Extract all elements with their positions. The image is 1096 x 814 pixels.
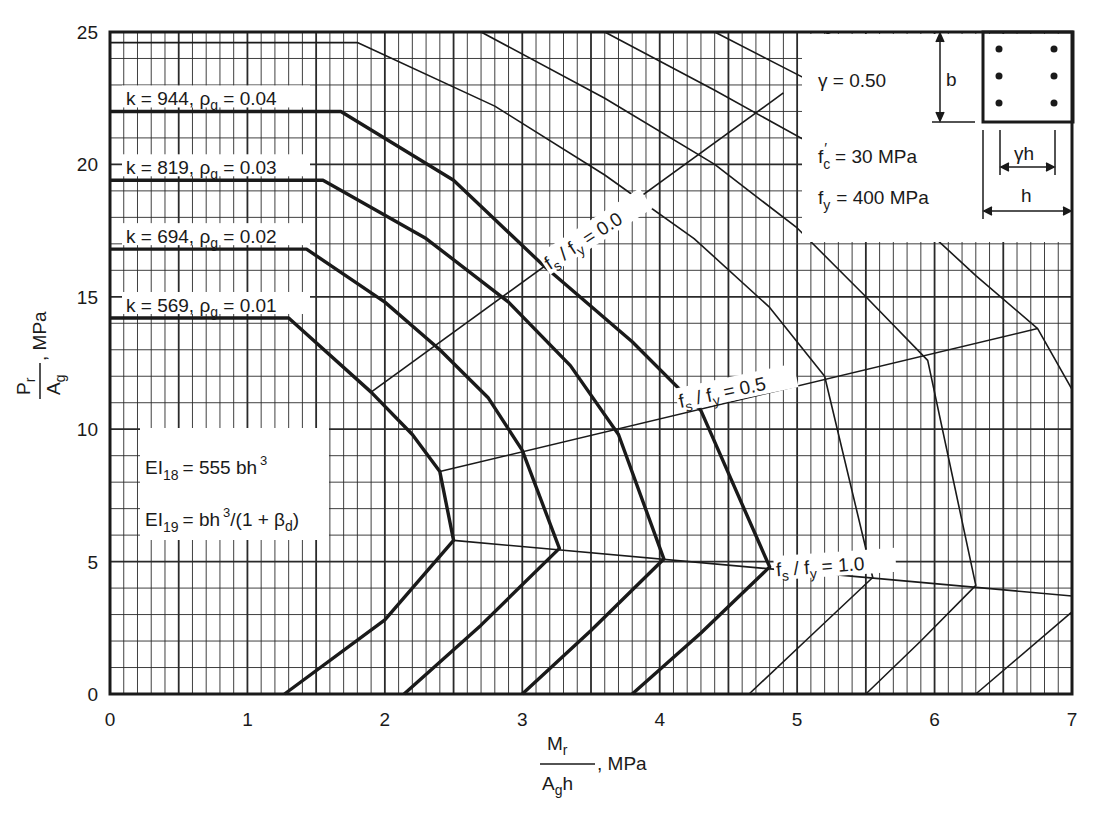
b-label: b (946, 69, 957, 90)
x-tick: 0 (105, 709, 116, 730)
stress-ratio-label: fs / fy = 0.5 (674, 364, 799, 417)
y-tick: 20 (77, 154, 98, 175)
x-tick: 6 (929, 709, 940, 730)
svg-text:Pr: Pr (13, 377, 38, 395)
svg-text:, MPa: , MPa (29, 311, 50, 361)
curve-label: k = 944, ρg = 0.04 (126, 88, 277, 113)
svg-text:fs / fy = 0.0: fs / fy = 0.0 (541, 208, 629, 277)
x-tick: 2 (380, 709, 391, 730)
section-legend: γ = 0.50 fc′= 30 MPa fy= 400 MPa b (802, 32, 1074, 242)
stress-ratio-label: fs / fy = 0.0 (537, 188, 655, 278)
gamma-label: γ = 0.50 (818, 70, 886, 91)
x-tick: 5 (792, 709, 803, 730)
svg-text:Agh: Agh (542, 773, 573, 798)
x-tick: 1 (242, 709, 253, 730)
x-tick: 4 (654, 709, 665, 730)
x-axis-label: Mr Agh , MPa (540, 733, 647, 798)
curve-label: k = 819, ρg = 0.03 (126, 157, 277, 182)
y-tick: 5 (87, 552, 98, 573)
x-tick: 3 (517, 709, 528, 730)
interaction-curve-thin (110, 43, 873, 694)
svg-text:Mr: Mr (547, 733, 568, 758)
x-tick: 7 (1067, 709, 1078, 730)
y-tick: 25 (77, 22, 98, 43)
y-tick: 10 (77, 419, 98, 440)
h-label: h (1021, 185, 1032, 206)
curve-labels: k = 569, ρg = 0.01k = 694, ρg = 0.02k = … (122, 85, 310, 320)
interaction-diagram: k = 569, ρg = 0.01k = 694, ρg = 0.02k = … (0, 0, 1096, 814)
curve-label: k = 569, ρg = 0.01 (126, 295, 277, 320)
y-axis-label: Pr Ag , MPa (13, 311, 68, 399)
y-tick: 0 (87, 684, 98, 705)
y-tick-labels: 0510152025 (77, 22, 98, 705)
y-tick: 15 (77, 287, 98, 308)
x-tick-labels: 01234567 (105, 709, 1078, 730)
gamma-h-label: γh (1014, 143, 1034, 164)
curve-label: k = 694, ρg = 0.02 (126, 226, 277, 251)
svg-text:, MPa: , MPa (597, 753, 647, 774)
ei-formula-box: EI18= 555 bh3 EI19= bh3/(1 + βd) (140, 428, 329, 540)
svg-text:Ag: Ag (43, 375, 68, 395)
interaction-curve-thin (976, 612, 1072, 694)
